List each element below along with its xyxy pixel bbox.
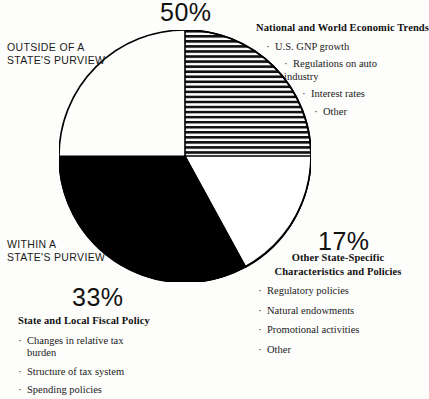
bullet-icon: ·	[258, 304, 262, 317]
legend-item-text: Regulations on auto	[293, 58, 377, 69]
legend-fiscal-policy: State and Local Fiscal Policy · Changes …	[18, 315, 213, 399]
legend-item-text: Other	[267, 344, 291, 355]
bullet-icon: ·	[18, 334, 22, 347]
label-within-line2: STATE'S PURVIEW	[7, 251, 105, 264]
percent-label-fiscal-policy: 33%	[72, 283, 124, 312]
bullet-icon: ·	[314, 105, 318, 118]
legend-title-other-state-specific-line1: Other State-Specific	[258, 252, 418, 265]
bullet-icon: ·	[258, 284, 262, 297]
legend-title-fiscal-policy: State and Local Fiscal Policy	[18, 315, 213, 328]
legend-list-other-state-specific: · Regulatory policies · Natural endowmen…	[258, 285, 418, 356]
label-outside-line2: STATE'S PURVIEW	[7, 54, 105, 67]
list-item: · Regulatory policies	[258, 285, 418, 298]
bullet-icon: ·	[18, 383, 22, 396]
legend-item-text: Spending policies	[27, 384, 102, 395]
legend-list-fiscal-policy: · Changes in relative tax burden · Struc…	[18, 335, 213, 397]
list-item: · Structure of tax system	[18, 366, 213, 379]
bullet-icon: ·	[284, 57, 288, 70]
legend-national-trends: National and World Economic Trends · U.S…	[252, 22, 420, 123]
bullet-icon: ·	[258, 343, 262, 356]
legend-item-text: Interest rates	[311, 88, 365, 99]
legend-item-text: Natural endowments	[267, 305, 354, 316]
label-outside-state-purview: OUTSIDE OF A STATE'S PURVIEW	[7, 41, 105, 67]
legend-other-state-specific: Other State-Specific Characteristics and…	[258, 252, 418, 363]
legend-item-text: Regulatory policies	[267, 285, 349, 296]
list-item: · Regulations on auto industry	[284, 58, 420, 83]
legend-item-text: Changes in relative tax	[27, 335, 124, 346]
list-item: · Promotional activities	[258, 324, 418, 337]
label-within-line1: WITHIN A	[7, 238, 105, 251]
legend-title-other-state-specific-line2: Characteristics and Policies	[258, 266, 418, 279]
legend-title-national-trends: National and World Economic Trends	[256, 22, 420, 35]
list-item: · Changes in relative tax burden	[18, 335, 213, 360]
list-item: · Other	[314, 106, 420, 119]
percent-label-national-trends: 50%	[160, 0, 212, 27]
bullet-icon: ·	[302, 87, 306, 100]
label-outside-line1: OUTSIDE OF A	[7, 41, 105, 54]
legend-item-text-line2: burden	[27, 347, 213, 360]
bullet-icon: ·	[258, 323, 262, 336]
list-item: · Spending policies	[18, 384, 213, 397]
list-item: · Interest rates	[302, 88, 420, 101]
list-item: · Natural endowments	[258, 305, 418, 318]
legend-item-text: Other	[323, 106, 347, 117]
bullet-icon: ·	[266, 40, 270, 53]
label-within-state-purview: WITHIN A STATE'S PURVIEW	[7, 238, 105, 264]
list-item: · U.S. GNP growth	[266, 41, 420, 54]
legend-item-text: Structure of tax system	[27, 366, 124, 377]
bullet-icon: ·	[18, 365, 22, 378]
legend-item-text: Promotional activities	[267, 324, 359, 335]
legend-list-national-trends: · U.S. GNP growth · Regulations on auto …	[252, 41, 420, 119]
legend-item-text-line2: industry	[284, 71, 420, 84]
list-item: · Other	[258, 344, 418, 357]
legend-item-text: U.S. GNP growth	[275, 41, 349, 52]
